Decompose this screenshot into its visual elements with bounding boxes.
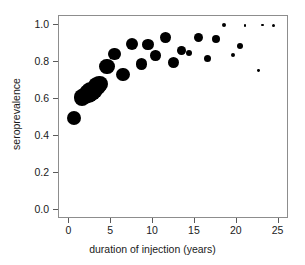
- data-point: [186, 50, 193, 57]
- data-point: [272, 24, 275, 27]
- x-axis-tick-label: 0: [66, 224, 72, 236]
- x-axis-tick: [194, 218, 195, 223]
- y-axis-tick-label: 0.0: [34, 203, 49, 215]
- data-point: [231, 53, 235, 57]
- x-axis-tick: [68, 218, 69, 223]
- y-axis-tick: [53, 135, 58, 136]
- data-point: [91, 76, 107, 92]
- data-point: [177, 46, 186, 55]
- data-point: [160, 32, 171, 43]
- x-axis-tick: [278, 218, 279, 223]
- x-axis-tick-label: 10: [146, 224, 158, 236]
- data-point: [67, 111, 81, 125]
- x-axis-tick: [236, 218, 237, 223]
- x-axis-tick-label: 25: [272, 224, 284, 236]
- data-point: [99, 59, 114, 74]
- data-point: [126, 38, 138, 50]
- y-axis-tick: [53, 98, 58, 99]
- y-axis-tick: [53, 24, 58, 25]
- x-axis-tick-label: 15: [188, 224, 200, 236]
- data-point: [136, 58, 147, 69]
- data-point: [150, 50, 160, 60]
- data-point: [116, 68, 129, 81]
- scatter-plot-figure: 0510152025 0.00.20.40.60.81.0 duration o…: [0, 0, 305, 265]
- x-axis-label: duration of injection (years): [0, 243, 305, 255]
- y-axis-tick: [53, 172, 58, 173]
- data-point: [261, 24, 263, 26]
- data-point: [222, 23, 226, 27]
- data-point: [142, 39, 154, 51]
- y-axis-tick-label: 0.8: [34, 55, 49, 67]
- y-axis-label: seroprevalence: [10, 54, 22, 174]
- data-point: [244, 24, 247, 27]
- data-point: [204, 55, 211, 62]
- x-axis-tick: [152, 218, 153, 223]
- y-axis-tick: [53, 209, 58, 210]
- data-point: [194, 33, 203, 42]
- data-point: [168, 57, 179, 68]
- x-axis-tick-label: 20: [230, 224, 242, 236]
- data-point: [212, 35, 220, 43]
- data-point: [257, 69, 260, 72]
- y-axis-tick-label: 0.4: [34, 129, 49, 141]
- y-axis-tick-label: 1.0: [34, 18, 49, 30]
- data-point: [108, 48, 120, 60]
- y-axis-tick-label: 0.6: [34, 92, 49, 104]
- data-points-layer: [59, 16, 287, 217]
- y-axis-tick-label: 0.2: [34, 166, 49, 178]
- data-point: [237, 43, 243, 49]
- y-axis-tick: [53, 61, 58, 62]
- plot-frame: [58, 15, 288, 218]
- x-axis-tick-label: 5: [107, 224, 113, 236]
- x-axis-tick: [110, 218, 111, 223]
